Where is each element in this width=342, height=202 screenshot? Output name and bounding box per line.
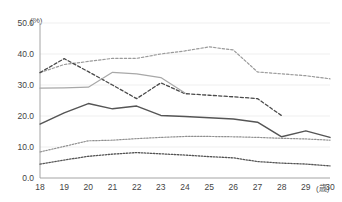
x-tick-label: 28 xyxy=(270,182,294,192)
series-line xyxy=(40,153,330,166)
series-line xyxy=(40,72,185,93)
line-chart-svg xyxy=(40,23,330,178)
x-tick-label: 25 xyxy=(197,182,221,192)
x-tick-label: 30 xyxy=(318,182,342,192)
x-tick-label: 23 xyxy=(149,182,173,192)
x-tick-label: 24 xyxy=(173,182,197,192)
x-tick-label: 20 xyxy=(76,182,100,192)
y-tick-label: 10.0 xyxy=(4,142,34,152)
series-line xyxy=(40,47,330,79)
x-tick-label: 22 xyxy=(125,182,149,192)
x-tick-label: 18 xyxy=(28,182,52,192)
y-tick-label: 50.0 xyxy=(4,18,34,28)
plot-area xyxy=(40,23,330,178)
series-line xyxy=(40,104,330,138)
x-tick-label: 27 xyxy=(246,182,270,192)
y-tick-label: 20.0 xyxy=(4,111,34,121)
chart-container: (%) (歳) 0.010.020.030.040.050.0 18192021… xyxy=(0,0,342,202)
x-tick-label: 29 xyxy=(294,182,318,192)
series-line xyxy=(40,136,330,152)
y-tick-label: 40.0 xyxy=(4,49,34,59)
x-tick-label: 26 xyxy=(221,182,245,192)
y-tick-label: 30.0 xyxy=(4,80,34,90)
x-tick-label: 21 xyxy=(101,182,125,192)
x-tick-label: 19 xyxy=(52,182,76,192)
